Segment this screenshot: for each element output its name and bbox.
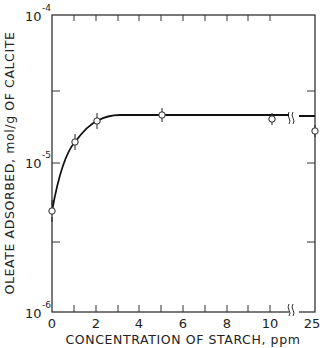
curve-break-icon — [288, 112, 299, 124]
plot-frame — [52, 15, 315, 312]
x-tick-labels: 0 2 4 6 8 10 25 — [48, 316, 320, 331]
x-tick-label: 6 — [179, 316, 187, 331]
data-point — [72, 139, 78, 145]
data-point — [269, 116, 275, 122]
data-point — [312, 128, 318, 134]
x-tick-label: 10 — [262, 316, 279, 331]
y-ticks — [52, 91, 315, 242]
x-tick-label: 25 — [304, 316, 321, 331]
fitted-curve — [52, 115, 315, 211]
x-axis-title: CONCENTRATION OF STARCH, ppm — [66, 332, 301, 347]
x-tick-label: 0 — [48, 316, 56, 331]
y-axis-title: OLEATE ADSORBED, mol/g OF CALCITE — [2, 32, 17, 295]
y-tick-exp-mid: -5 — [42, 150, 51, 160]
y-tick-exp-bot: -6 — [42, 300, 51, 310]
x-tick-label: 4 — [135, 316, 143, 331]
data-point — [94, 118, 100, 124]
y-tick-labels: 10 -4 10 -5 10 -6 — [25, 3, 51, 321]
y-tick-label-mid: 10 — [25, 156, 42, 171]
data-point — [159, 112, 165, 118]
chart: 10 -4 10 -5 10 -6 0 2 4 6 8 10 25 CONCEN… — [0, 0, 323, 348]
x-ticks-top — [74, 15, 270, 21]
y-tick-label-top: 10 — [25, 9, 42, 24]
x-tick-label: 2 — [92, 316, 100, 331]
y-tick-label-bot: 10 — [25, 306, 42, 321]
x-ticks-bottom — [74, 305, 270, 312]
data-point — [49, 208, 55, 214]
x-tick-label: 8 — [223, 316, 231, 331]
y-tick-exp-top: -4 — [42, 3, 51, 13]
